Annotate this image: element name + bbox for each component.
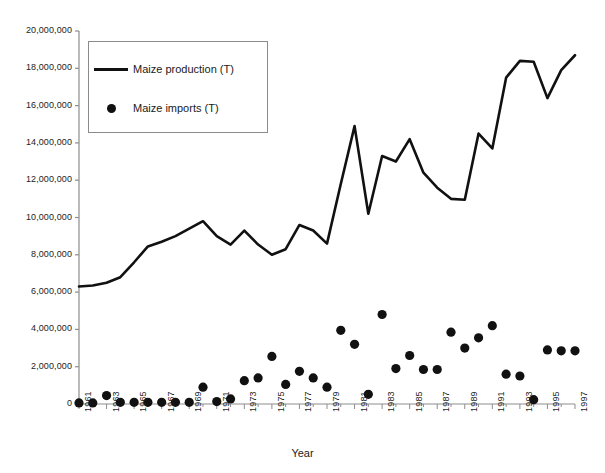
x-axis-tick-label: 1983 xyxy=(386,391,396,412)
x-axis-tick-label: 1961 xyxy=(83,391,93,412)
x-axis-title: Year xyxy=(0,447,605,459)
y-axis-tick-label: 16,000,000 xyxy=(6,100,72,110)
x-axis-tick-label: 1977 xyxy=(303,391,313,412)
x-axis-tick-label: 1997 xyxy=(579,391,589,412)
x-axis-tick-label: 1963 xyxy=(111,391,121,412)
chart-legend: Maize production (T) Maize imports (T) xyxy=(88,41,268,133)
y-axis-tick-label: 14,000,000 xyxy=(6,137,72,147)
x-axis-tick-label: 1975 xyxy=(276,391,286,412)
y-axis-tick-label: 4,000,000 xyxy=(6,323,72,333)
x-axis-tick-label: 1991 xyxy=(496,391,506,412)
y-axis-tick-label: 8,000,000 xyxy=(6,249,72,259)
y-axis-tick-label: 2,000,000 xyxy=(6,361,72,371)
x-axis-tick-label: 1989 xyxy=(469,391,479,412)
dot-marker-icon xyxy=(89,104,133,113)
x-axis-tick-label: 1965 xyxy=(138,391,148,412)
y-axis-tick-label: 20,000,000 xyxy=(6,25,72,35)
x-axis-tick-label: 1969 xyxy=(193,391,203,412)
x-axis-tick-label: 1987 xyxy=(441,391,451,412)
x-axis-tick-label: 1973 xyxy=(248,391,258,412)
x-axis-tick-label: 1985 xyxy=(414,391,424,412)
x-axis-tick-label: 1993 xyxy=(524,391,534,412)
line-marker-icon xyxy=(89,68,133,71)
maize-production-imports-chart: 02,000,0004,000,0006,000,0008,000,00010,… xyxy=(0,0,605,473)
y-axis-tick-label: 10,000,000 xyxy=(6,212,72,222)
x-axis-tick-label: 1971 xyxy=(221,391,231,412)
x-axis-tick-label: 1995 xyxy=(551,391,561,412)
legend-item-maize-production: Maize production (T) xyxy=(89,58,267,80)
y-axis-tick-label: 6,000,000 xyxy=(6,286,72,296)
legend-label-maize-production: Maize production (T) xyxy=(133,63,234,75)
y-axis-tick-label: 0 xyxy=(6,398,72,408)
legend-item-maize-imports: Maize imports (T) xyxy=(89,97,267,119)
x-axis-tick-label: 1967 xyxy=(166,391,176,412)
x-axis-tick-label: 1979 xyxy=(331,391,341,412)
y-axis-tick-label: 12,000,000 xyxy=(6,174,72,184)
x-axis-tick-label: 1981 xyxy=(359,391,369,412)
legend-label-maize-imports: Maize imports (T) xyxy=(133,102,219,114)
y-axis-tick-label: 18,000,000 xyxy=(6,62,72,72)
